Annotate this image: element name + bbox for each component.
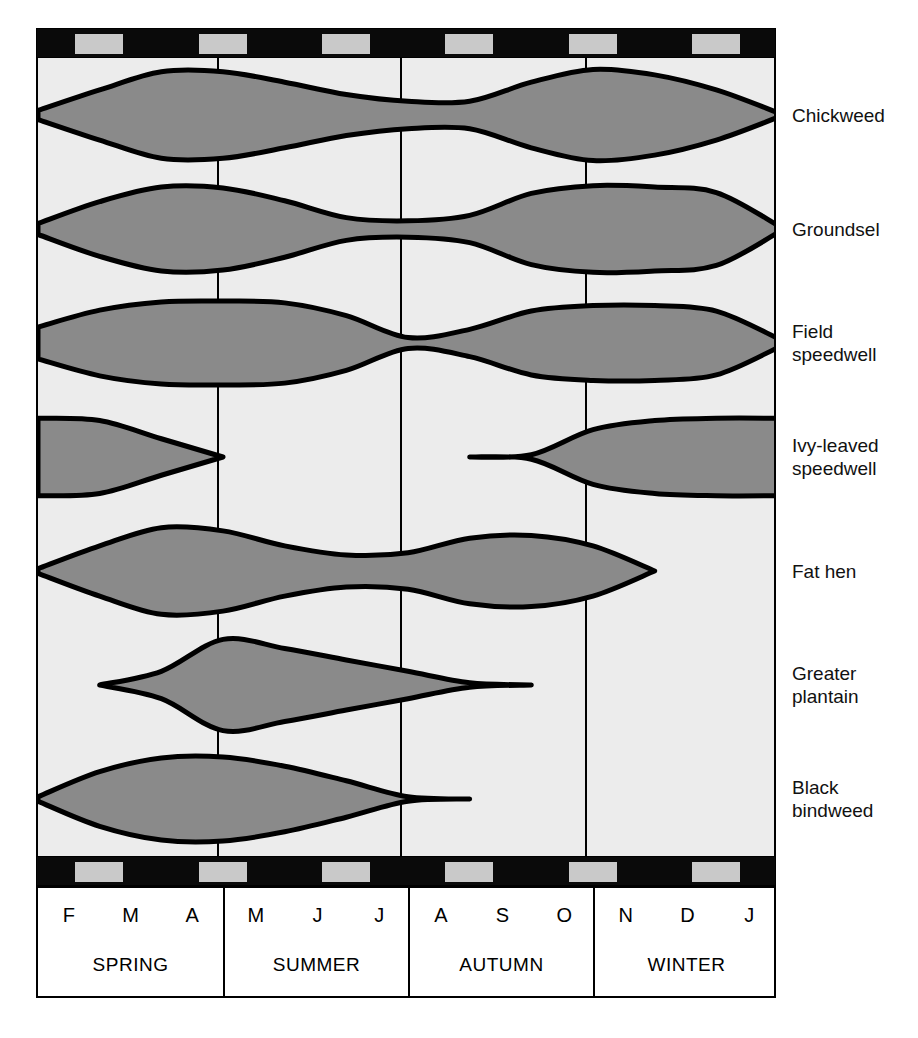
- month-tick-block: [692, 34, 740, 54]
- violin-band: [470, 418, 776, 496]
- month-tick-block: [75, 862, 123, 882]
- violin-band: [38, 301, 776, 385]
- month-tick-block: [75, 34, 123, 54]
- month-tick-block: [445, 862, 493, 882]
- month-label-row: ASO: [410, 888, 593, 946]
- species-label-greater-plantain: Greater plantain: [792, 662, 859, 708]
- violin-band: [38, 69, 776, 161]
- month-season-axis: FMASPRINGMJJSUMMERASOAUTUMNNDJWINTER: [36, 886, 776, 998]
- season-label-spring: SPRING: [38, 954, 223, 976]
- month-tick-block: [322, 34, 370, 54]
- month-label-january: J: [729, 904, 769, 927]
- season-label-summer: SUMMER: [225, 954, 408, 976]
- season-cell-autumn: ASOAUTUMN: [408, 888, 593, 996]
- month-label-june: J: [298, 904, 338, 927]
- month-tick-block: [199, 862, 247, 882]
- month-label-august: A: [421, 904, 461, 927]
- violin-series-layer: [38, 58, 776, 856]
- season-cell-spring: FMASPRING: [38, 888, 223, 996]
- species-label-black-bindweed: Black bindweed: [792, 776, 873, 822]
- month-label-july: J: [359, 904, 399, 927]
- month-label-november: N: [606, 904, 646, 927]
- species-label-column: ChickweedGroundselField speedwellIvy-lea…: [792, 28, 918, 908]
- species-label-ivy-leaved-speedwell: Ivy-leaved speedwell: [792, 434, 879, 480]
- month-label-february: F: [49, 904, 89, 927]
- plot-area: [36, 58, 776, 856]
- species-label-fat-hen: Fat hen: [792, 560, 856, 583]
- violin-band: [38, 418, 223, 496]
- season-label-winter: WINTER: [595, 954, 778, 976]
- month-tick-block: [569, 862, 617, 882]
- species-label-groundsel: Groundsel: [792, 218, 880, 241]
- season-cell-winter: NDJWINTER: [593, 888, 778, 996]
- month-tickbar-bottom: [36, 856, 776, 886]
- species-label-field-speedwell: Field speedwell: [792, 320, 877, 366]
- month-label-may: M: [236, 904, 276, 927]
- month-label-september: S: [483, 904, 523, 927]
- weed-emergence-figure: FMASPRINGMJJSUMMERASOAUTUMNNDJWINTER Chi…: [0, 0, 918, 1038]
- month-label-march: M: [111, 904, 151, 927]
- month-tick-block: [692, 862, 740, 882]
- season-cell-summer: MJJSUMMER: [223, 888, 408, 996]
- chart-frame: FMASPRINGMJJSUMMERASOAUTUMNNDJWINTER: [36, 28, 776, 1000]
- violin-band: [100, 639, 532, 732]
- violin-band: [38, 185, 776, 272]
- month-label-row: MJJ: [225, 888, 408, 946]
- month-tick-block: [445, 34, 493, 54]
- month-tickbar-top: [36, 28, 776, 58]
- month-tick-block: [322, 862, 370, 882]
- violin-band: [38, 756, 470, 842]
- species-label-chickweed: Chickweed: [792, 104, 885, 127]
- month-label-april: A: [172, 904, 212, 927]
- month-label-october: O: [544, 904, 584, 927]
- month-tick-block: [199, 34, 247, 54]
- month-label-row: NDJ: [595, 888, 778, 946]
- violin-band: [38, 527, 655, 616]
- season-label-autumn: AUTUMN: [410, 954, 593, 976]
- month-label-december: D: [668, 904, 708, 927]
- month-tick-block: [569, 34, 617, 54]
- month-label-row: FMA: [38, 888, 223, 946]
